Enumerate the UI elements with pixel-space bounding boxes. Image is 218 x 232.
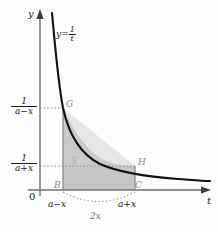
- hyperbola-figure: y t 0 y= 1 t 1 a−x 1 a+x a−x a+x 2x G H …: [0, 0, 218, 232]
- rectangle-bghc-lower-band: [63, 166, 135, 190]
- t-axis-arrow: [201, 186, 211, 193]
- y-tick-lower-numerator: 1: [11, 154, 37, 163]
- point-label-h: H: [138, 158, 146, 167]
- y-tick-upper: 1 a−x: [11, 97, 37, 117]
- curve-equation-denominator: t: [69, 34, 76, 43]
- y-axis-label: y: [28, 9, 34, 19]
- point-label-c: C: [135, 181, 142, 190]
- point-label-g: G: [66, 100, 73, 109]
- y-tick-lower: 1 a+x: [11, 154, 37, 174]
- curve-equation-label: y= 1 t: [56, 26, 76, 44]
- region-label-s: S: [71, 157, 77, 166]
- y-tick-upper-numerator: 1: [11, 97, 37, 106]
- curve-equation-fraction: 1 t: [69, 26, 76, 44]
- origin-label: 0: [29, 192, 35, 202]
- y-axis-arrow: [36, 9, 43, 19]
- curve-equation-equals: =: [61, 29, 69, 39]
- curve-equation-numerator: 1: [69, 26, 76, 34]
- span-label-2x: 2x: [90, 212, 101, 221]
- y-tick-lower-denominator: a+x: [11, 163, 37, 173]
- point-label-b: B: [54, 181, 61, 190]
- t-axis-label: t: [207, 196, 211, 206]
- y-tick-upper-denominator: a−x: [11, 106, 37, 116]
- x-tick-left: a−x: [48, 200, 66, 209]
- x-tick-right: a+x: [118, 200, 136, 209]
